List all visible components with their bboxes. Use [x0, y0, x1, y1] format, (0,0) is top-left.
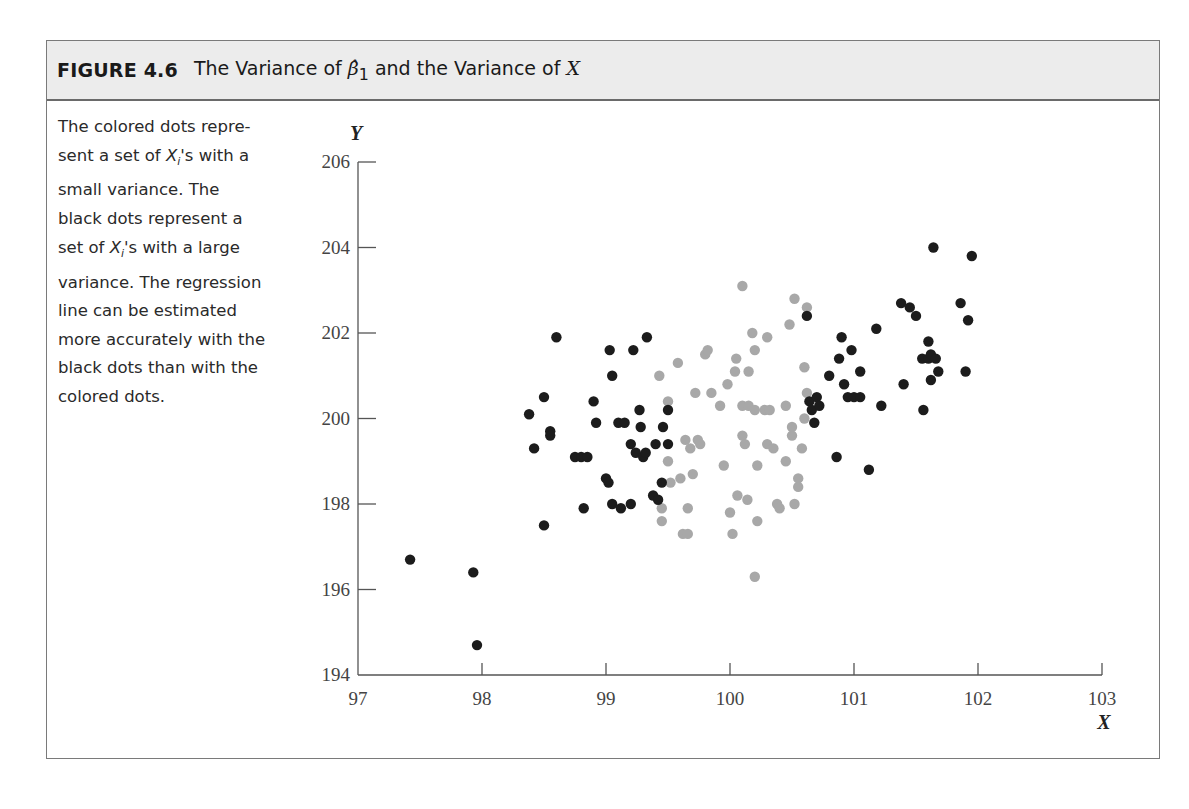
x-tick-label: 98 — [473, 688, 492, 709]
x-tick-label: 103 — [1088, 688, 1117, 709]
data-point — [616, 503, 626, 513]
data-point — [588, 396, 598, 406]
data-point — [960, 366, 970, 376]
data-point — [654, 371, 664, 381]
y-axis-title: Y — [350, 122, 364, 144]
data-point — [663, 439, 673, 449]
data-point — [657, 477, 667, 487]
data-point — [802, 311, 812, 321]
data-point — [923, 336, 933, 346]
data-point — [731, 353, 741, 363]
y-tick-label: 204 — [322, 237, 351, 258]
x-tick-label: 97 — [349, 688, 368, 709]
data-point — [765, 405, 775, 415]
data-point — [579, 503, 589, 513]
data-point — [789, 294, 799, 304]
data-point — [650, 439, 660, 449]
data-point — [715, 401, 725, 411]
data-point — [685, 443, 695, 453]
data-point — [653, 495, 663, 505]
data-point — [658, 422, 668, 432]
data-point — [762, 332, 772, 342]
y-tick-label: 198 — [322, 493, 351, 514]
data-point — [703, 345, 713, 355]
data-point — [675, 473, 685, 483]
x-axis-title: X — [1096, 711, 1111, 733]
x-tick-label: 102 — [964, 688, 993, 709]
data-point — [642, 332, 652, 342]
data-point — [797, 443, 807, 453]
data-point — [683, 503, 693, 513]
data-point — [747, 328, 757, 338]
data-point — [834, 353, 844, 363]
data-point — [582, 452, 592, 462]
data-point — [539, 520, 549, 530]
data-point — [641, 448, 651, 458]
data-point — [750, 405, 760, 415]
data-point — [730, 366, 740, 376]
data-point — [831, 452, 841, 462]
data-point — [793, 482, 803, 492]
data-point — [799, 362, 809, 372]
y-tick-label: 200 — [322, 408, 351, 429]
data-point — [742, 495, 752, 505]
data-point — [752, 460, 762, 470]
data-point — [740, 439, 750, 449]
data-point — [931, 353, 941, 363]
data-point — [928, 242, 938, 252]
data-point — [967, 251, 977, 261]
y-tick-label: 194 — [322, 664, 351, 685]
data-point — [911, 311, 921, 321]
data-point — [722, 379, 732, 389]
data-point — [864, 465, 874, 475]
scatter-plot: 194196198200202204206979899100101102103Y… — [0, 0, 1189, 809]
data-point — [898, 379, 908, 389]
data-point — [855, 392, 865, 402]
data-point — [846, 345, 856, 355]
data-point — [619, 418, 629, 428]
data-point — [539, 392, 549, 402]
data-point — [663, 405, 673, 415]
data-point — [472, 640, 482, 650]
data-point — [551, 332, 561, 342]
data-point — [732, 490, 742, 500]
y-tick-label: 202 — [322, 322, 351, 343]
data-point — [876, 401, 886, 411]
data-point — [607, 371, 617, 381]
x-tick-label: 101 — [840, 688, 869, 709]
data-point — [545, 430, 555, 440]
data-point — [809, 418, 819, 428]
data-point — [836, 332, 846, 342]
data-point — [933, 366, 943, 376]
data-point — [750, 345, 760, 355]
data-point — [468, 567, 478, 577]
data-point — [688, 469, 698, 479]
data-point — [814, 401, 824, 411]
data-point — [752, 516, 762, 526]
data-point — [405, 554, 415, 564]
data-point — [918, 405, 928, 415]
data-point — [605, 345, 615, 355]
data-point — [824, 371, 834, 381]
data-point — [657, 516, 667, 526]
data-point — [673, 358, 683, 368]
data-point — [634, 405, 644, 415]
data-point — [871, 324, 881, 334]
data-point — [529, 443, 539, 453]
data-point — [839, 379, 849, 389]
data-point — [768, 443, 778, 453]
data-point — [626, 499, 636, 509]
x-tick-label: 99 — [597, 688, 616, 709]
data-point — [955, 298, 965, 308]
data-point — [690, 388, 700, 398]
data-point — [725, 507, 735, 517]
data-point — [750, 572, 760, 582]
data-point — [781, 456, 791, 466]
data-point — [591, 418, 601, 428]
y-tick-label: 206 — [322, 151, 351, 172]
data-point — [905, 302, 915, 312]
data-point — [719, 460, 729, 470]
data-point — [789, 499, 799, 509]
data-point — [706, 388, 716, 398]
data-point — [774, 503, 784, 513]
